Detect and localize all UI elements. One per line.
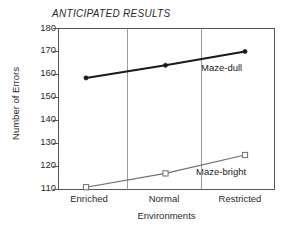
series-maze-dull <box>84 49 247 80</box>
category-separators <box>128 29 202 190</box>
data-series-layer <box>83 49 247 189</box>
data-point-marker <box>84 76 88 80</box>
chart-figure: ANTICIPATED RESULTS Number of Errors 180… <box>0 0 299 235</box>
data-point-marker <box>243 49 247 53</box>
plot-area <box>0 0 299 235</box>
y-axis-ticks <box>53 29 59 190</box>
series-maze-bright <box>83 152 247 189</box>
data-point-marker <box>242 152 247 157</box>
data-point-marker <box>163 63 167 67</box>
data-point-marker <box>83 185 88 190</box>
data-point-marker <box>163 171 168 176</box>
